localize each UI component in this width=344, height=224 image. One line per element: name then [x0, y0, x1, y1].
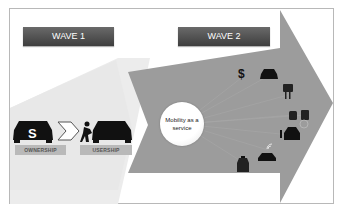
mobility-as-a-service-circle: Mobility as a service	[160, 102, 204, 146]
center-label: Mobility as a service	[165, 116, 199, 132]
wave1-label: WAVE 1	[23, 27, 114, 46]
wave2-label: WAVE 2	[178, 27, 270, 46]
bus-icon	[289, 111, 297, 120]
usership-label: USERSHIP	[80, 145, 132, 155]
ownership-label: OWNERSHIP	[15, 145, 66, 155]
car-with-dollar-icon: S	[13, 121, 53, 143]
dollar-icon: $	[238, 67, 245, 81]
svg-text:S: S	[28, 126, 37, 141]
person-pushing-car-icon	[80, 121, 132, 143]
